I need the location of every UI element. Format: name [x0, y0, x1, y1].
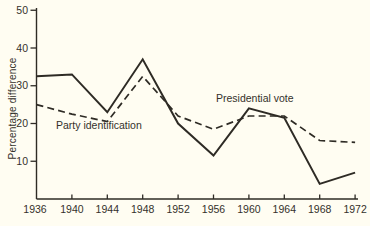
y-tick-label: 40: [16, 42, 28, 54]
y-tick-label: 50: [16, 4, 28, 16]
line-chart: 1020304050193619401944194819521956196019…: [0, 0, 370, 226]
x-tick-label: 1936: [23, 203, 47, 215]
x-tick-label: 1964: [273, 203, 297, 215]
y-tick-label: 30: [16, 79, 28, 91]
y-axis-title: Percentage difference: [7, 54, 18, 164]
x-tick-label: 1972: [343, 203, 367, 215]
x-tick-label: 1944: [96, 203, 120, 215]
book-page: 1020304050193619401944194819521956196019…: [0, 0, 370, 226]
x-tick-label: 1940: [60, 203, 84, 215]
chart-canvas: 1020304050193619401944194819521956196019…: [0, 0, 370, 226]
series-label-presidential-vote: Presidential vote: [216, 92, 294, 104]
x-tick-label: 1956: [202, 203, 226, 215]
x-tick-label: 1952: [166, 203, 190, 215]
x-tick-label: 1968: [308, 203, 332, 215]
series-label-party-identification: Party identification: [56, 119, 142, 131]
y-tick-label: 20: [16, 117, 28, 129]
x-tick-label: 1960: [237, 203, 261, 215]
x-tick-label: 1948: [131, 203, 155, 215]
y-tick-label: 10: [16, 155, 28, 167]
